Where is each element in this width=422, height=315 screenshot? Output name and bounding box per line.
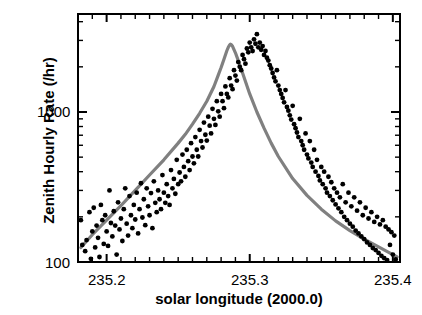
scatter-points bbox=[78, 32, 398, 263]
chart-figure: 1000 100 235.2 235.3 235.4 Zenith Hourly… bbox=[0, 0, 422, 315]
x-axis-title: solar longitude (2000.0) bbox=[78, 290, 400, 307]
y-axis-title: Zenith Hourly Rate (/hr) bbox=[40, 21, 57, 261]
x-tick-label-235-4: 235.4 bbox=[374, 271, 412, 288]
x-tick-label-235-3: 235.3 bbox=[231, 271, 269, 288]
x-tick-label-235-2: 235.2 bbox=[88, 271, 126, 288]
